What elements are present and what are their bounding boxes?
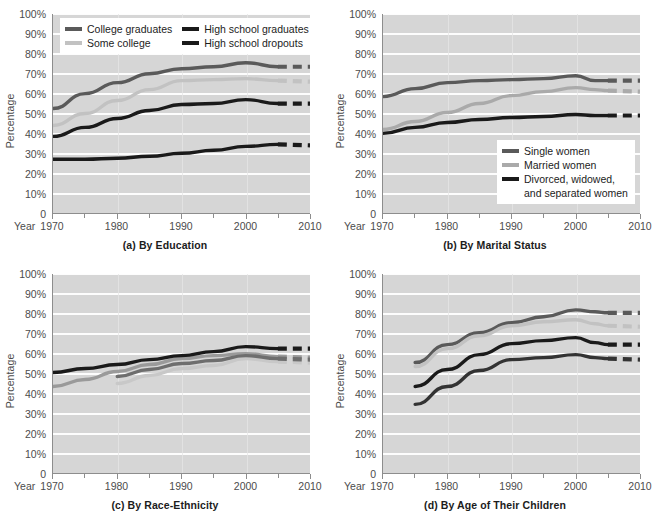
series-line [53, 144, 278, 159]
y-tick-label: 10% [6, 189, 46, 200]
plot-area-c [52, 274, 310, 474]
x-tick-label: 2000 [234, 220, 257, 232]
legend-item[interactable]: Some college [65, 36, 172, 50]
y-tick-label: 40% [336, 389, 376, 400]
x-tick-minor [543, 474, 544, 478]
x-tick-minor [278, 474, 279, 478]
y-tick-label: 60% [336, 89, 376, 100]
panel-caption-d: (d) By Age of Their Children [330, 499, 660, 511]
x-tick-label: 2010 [298, 220, 321, 232]
x-tick-label: 2010 [298, 480, 321, 492]
y-tick-label: 40% [336, 129, 376, 140]
x-tick [246, 474, 247, 479]
x-tick-minor [84, 214, 85, 218]
y-tick-label: 0 [6, 469, 46, 480]
x-tick-label: 2000 [564, 480, 587, 492]
y-tick-label: 10% [6, 449, 46, 460]
x-tick-label: 1990 [499, 480, 522, 492]
x-tick-label: 1980 [105, 220, 128, 232]
legend-swatch-icon [65, 41, 82, 46]
legend-label: Married women [524, 158, 596, 172]
series-line [383, 114, 608, 133]
x-tick [576, 214, 577, 219]
y-tick-label: 30% [336, 149, 376, 160]
series-line-projected [278, 362, 310, 363]
legend-item[interactable]: High school graduates [182, 22, 308, 36]
x-tick-label: 1970 [40, 220, 63, 232]
x-tick-minor [414, 474, 415, 478]
y-tick-label: 30% [336, 409, 376, 420]
y-tick-label: 60% [6, 89, 46, 100]
x-tick-label: 2000 [234, 480, 257, 492]
x-tick-label: 1970 [40, 480, 63, 492]
legend-label: Some college [87, 36, 151, 50]
x-axis-label: Year [344, 480, 365, 492]
x-tick-minor [84, 474, 85, 478]
series-line [383, 88, 608, 130]
y-tick-label: 60% [336, 349, 376, 360]
legend-swatch-icon [502, 149, 519, 154]
x-tick-label: 1990 [499, 220, 522, 232]
series-line-projected [608, 91, 640, 92]
x-tick-minor [543, 214, 544, 218]
y-tick-label: 80% [336, 309, 376, 320]
series-line-projected [608, 359, 640, 360]
x-tick-label: 1990 [169, 220, 192, 232]
y-tick-label: 90% [6, 29, 46, 40]
legend-item-continuation: and separated women [502, 186, 628, 200]
legend-swatch-icon [502, 177, 519, 182]
x-tick-minor [149, 214, 150, 218]
legend-item[interactable]: College graduates [65, 22, 172, 36]
y-tick-label: 100% [336, 269, 376, 280]
x-tick [511, 474, 512, 479]
y-tick-label: 50% [336, 369, 376, 380]
y-tick-label: 90% [336, 289, 376, 300]
y-tick-label: 70% [336, 69, 376, 80]
panel-a: Percentage100%90%80%70%60%50%40%30%20%10… [0, 0, 330, 260]
panel-caption-b: (b) By Marital Status [330, 239, 660, 251]
x-axis-label: Year [344, 220, 365, 232]
legend-item[interactable]: High school dropouts [182, 36, 308, 50]
y-tick-label: 50% [6, 369, 46, 380]
series-layer [383, 274, 640, 473]
y-tick-label: 20% [6, 169, 46, 180]
series-line [415, 355, 608, 405]
x-tick [310, 214, 311, 219]
x-tick [117, 214, 118, 219]
x-tick-minor [414, 214, 415, 218]
x-tick-label: 1980 [435, 480, 458, 492]
panel-c: Percentage100%90%80%70%60%50%40%30%20%10… [0, 260, 330, 520]
x-tick [640, 474, 641, 479]
legend-item[interactable]: Single women [502, 144, 628, 158]
x-tick-minor [608, 474, 609, 478]
series-line-projected [278, 359, 310, 360]
x-tick-minor [278, 214, 279, 218]
y-tick-label: 70% [6, 329, 46, 340]
x-tick-minor [213, 214, 214, 218]
y-tick-label: 20% [336, 169, 376, 180]
y-tick-label: 0 [336, 469, 376, 480]
y-tick-label: 100% [6, 269, 46, 280]
legend-label: Divorced, widowed, [524, 172, 615, 186]
x-tick-label: 1970 [370, 220, 393, 232]
y-tick-label: 20% [336, 429, 376, 440]
legend-column: High school graduatesHigh school dropout… [182, 22, 308, 50]
legend-swatch-icon [182, 27, 199, 32]
legend-label-line2: and separated women [502, 186, 628, 200]
y-tick-label: 50% [336, 109, 376, 120]
legend-item[interactable]: Married women [502, 158, 628, 172]
legend-b: Single womenMarried womenDivorced, widow… [497, 140, 635, 204]
x-tick [310, 474, 311, 479]
y-tick-label: 0 [6, 209, 46, 220]
legend-label: College graduates [87, 22, 172, 36]
legend-item[interactable]: Divorced, widowed, [502, 172, 628, 186]
legend-column: College graduatesSome college [65, 22, 172, 50]
x-tick [576, 474, 577, 479]
x-tick [382, 474, 383, 479]
legend-swatch-icon [502, 163, 519, 168]
x-axis-label: Year [14, 220, 35, 232]
y-tick-label: 20% [6, 429, 46, 440]
series-line [53, 79, 278, 126]
legend-label: High school graduates [204, 22, 308, 36]
y-tick-label: 30% [6, 149, 46, 160]
